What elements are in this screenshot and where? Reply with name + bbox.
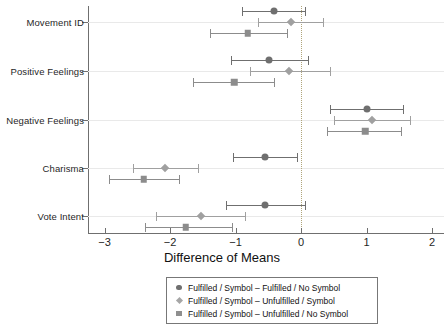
confidence-interval-cap [145,223,146,232]
confidence-interval-cap [410,116,411,125]
x-axis-tick-label: −3 [98,236,111,248]
confidence-interval-cap [297,153,298,162]
confidence-interval-cap [330,67,331,76]
confidence-interval-cap [287,29,288,38]
confidence-interval-cap [323,18,324,27]
confidence-interval-cap [305,201,306,210]
x-axis-tick-label: −2 [164,236,177,248]
confidence-interval-cap [334,116,335,125]
error-bar-row [0,28,444,39]
confidence-interval-cap [401,127,402,136]
legend-swatch [175,297,182,304]
error-bar-row [0,17,444,28]
confidence-interval-cap [233,153,234,162]
confidence-interval-cap [330,105,331,114]
plot-area: Movement IDPositive FeelingsNegative Fee… [0,0,444,240]
data-point-circle [364,106,371,113]
confidence-interval-cap [327,127,328,136]
square-marker-icon [172,311,186,317]
data-point-diamond [197,212,205,220]
confidence-interval-cap [245,212,246,221]
data-point-circle [261,154,268,161]
legend-swatch [176,311,182,317]
confidence-interval-cap [305,7,306,16]
legend-item-label: Fulfilled / Symbol – Fulfilled / No Symb… [186,283,340,293]
legend-swatch [176,285,182,291]
data-point-circle [265,57,272,64]
confidence-interval-cap [133,164,134,173]
data-point-square [141,176,148,183]
confidence-interval-cap [210,29,211,38]
confidence-interval-cap [258,18,259,27]
legend-item: Fulfilled / Symbol – Unfulfilled / Symbo… [172,294,372,307]
error-bar-row [0,200,444,211]
confidence-interval-cap [193,78,194,87]
confidence-interval-cap [403,105,404,114]
data-point-square [182,224,189,231]
data-point-diamond [367,116,375,124]
data-point-square [362,128,369,135]
error-bar-row [0,126,444,137]
data-point-diamond [286,18,294,26]
confidence-interval-cap [226,201,227,210]
error-bar-row [0,55,444,66]
confidence-interval-cap [242,7,243,16]
error-bar-row [0,104,444,115]
error-bar-row [0,152,444,163]
x-axis-tick-label: 1 [363,236,369,248]
confidence-interval-cap [232,223,233,232]
legend-item-label: Fulfilled / Symbol – Unfulfilled / No Sy… [186,309,348,319]
confidence-interval-cap [179,175,180,184]
confidence-interval-cap [231,56,232,65]
data-point-square [231,79,238,86]
x-axis-tick-label: 2 [429,236,435,248]
error-bar-row [0,174,444,185]
confidence-interval-cap [156,212,157,221]
legend-item: Fulfilled / Symbol – Unfulfilled / No Sy… [172,307,372,320]
data-point-square [245,30,252,37]
error-bar-row [0,222,444,233]
circle-marker-icon [172,285,186,291]
diamond-marker-icon [172,298,186,303]
legend-item: Fulfilled / Symbol – Fulfilled / No Symb… [172,281,372,294]
x-axis-title: Difference of Means [0,250,444,265]
data-point-diamond [161,164,169,172]
chart-root: Movement IDPositive FeelingsNegative Fee… [0,0,444,335]
confidence-interval-cap [250,67,251,76]
confidence-interval-cap [109,175,110,184]
confidence-interval-cap [274,78,275,87]
error-bar-row [0,163,444,174]
error-bar-row [0,115,444,126]
data-point-circle [261,202,268,209]
error-bar-row [0,66,444,77]
error-bar-row [0,211,444,222]
legend-box: Fulfilled / Symbol – Fulfilled / No Symb… [166,277,378,324]
x-axis-tick-label: −1 [229,236,242,248]
x-axis-line [88,233,444,234]
confidence-interval-cap [198,164,199,173]
error-bar-row [0,6,444,17]
error-bar-row [0,77,444,88]
data-point-circle [271,8,278,15]
legend-item-label: Fulfilled / Symbol – Unfulfilled / Symbo… [186,296,335,306]
x-axis-tick-label: 0 [298,236,304,248]
data-point-diamond [285,67,293,75]
confidence-interval-cap [308,56,309,65]
